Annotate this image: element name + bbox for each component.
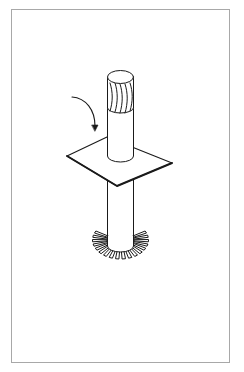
rotation-arrow-icon [72,97,98,131]
shaft-plate-gear-illustration [0,0,244,372]
shaft-top-cap [108,71,134,84]
gear-tooth [93,240,107,242]
gear-tooth [134,240,148,242]
